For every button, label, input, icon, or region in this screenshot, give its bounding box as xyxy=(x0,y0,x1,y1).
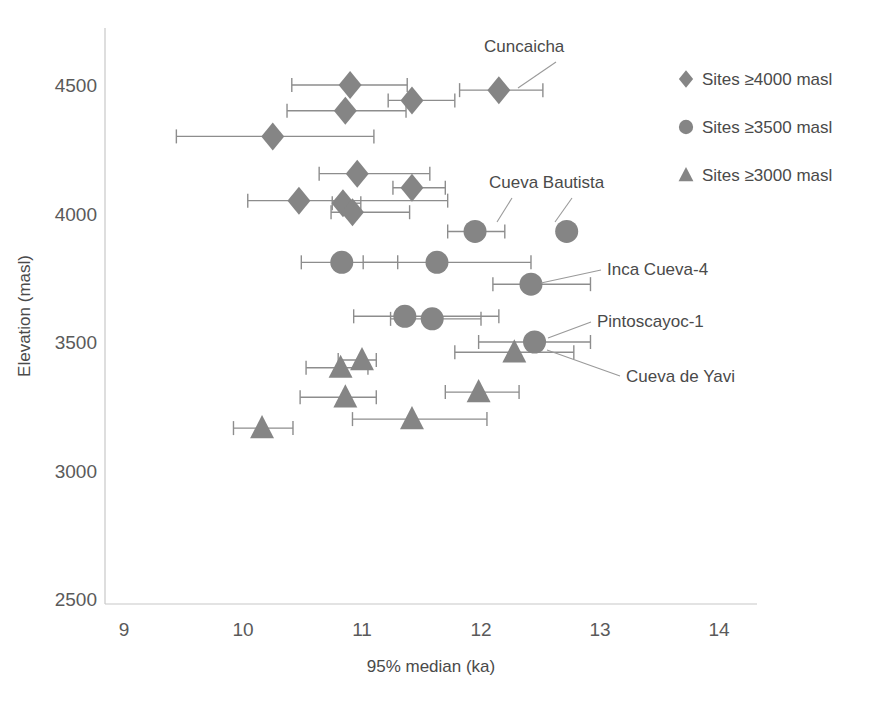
data-point-marker xyxy=(555,220,578,243)
data-point-marker xyxy=(393,305,416,328)
annotation-label: Cueva Bautista xyxy=(489,173,605,192)
legend-item-label: Sites ≥4000 masl xyxy=(702,70,832,89)
annotation-label: Cuncaicha xyxy=(484,37,565,56)
x-tick-label: 12 xyxy=(470,619,491,640)
legend-item[interactable]: Sites ≥4000 masl xyxy=(679,70,832,89)
y-tick-label: 3500 xyxy=(55,332,97,353)
legend-item-label: Sites ≥3000 masl xyxy=(702,166,832,185)
y-tick-label: 2500 xyxy=(55,589,97,610)
y-tick-label: 4500 xyxy=(55,75,97,96)
x-tick-label: 11 xyxy=(352,619,372,640)
data-point-marker xyxy=(330,251,353,274)
legend-item[interactable]: Sites ≥3500 masl xyxy=(679,118,832,137)
x-tick-label: 13 xyxy=(589,619,610,640)
annotation-label: Cueva de Yavi xyxy=(626,367,735,386)
circle-icon xyxy=(679,120,693,134)
annotation-label: Inca Cueva-4 xyxy=(607,260,708,279)
x-axis-title: 95% median (ka) xyxy=(367,657,496,676)
x-tick-label: 14 xyxy=(708,619,730,640)
data-point-marker xyxy=(425,251,448,274)
data-point-marker xyxy=(523,331,546,354)
y-tick-label: 4000 xyxy=(55,204,97,225)
legend-item-label: Sites ≥3500 masl xyxy=(702,118,832,137)
data-point-marker xyxy=(464,220,487,243)
y-tick-label: 3000 xyxy=(55,461,97,482)
legend: Sites ≥4000 maslSites ≥3500 maslSites ≥3… xyxy=(679,70,833,185)
annotation-label: Pintoscayoc-1 xyxy=(597,312,704,331)
data-point-marker xyxy=(519,273,542,296)
legend-item[interactable]: Sites ≥3000 masl xyxy=(679,166,833,185)
scatter-chart-figure: 25003000350040004500 91011121314 Cuncaic… xyxy=(0,0,884,706)
y-axis-title: Elevation (masl) xyxy=(15,255,34,377)
chart-canvas: 25003000350040004500 91011121314 Cuncaic… xyxy=(0,0,884,706)
chart-background xyxy=(0,0,884,706)
data-point-marker xyxy=(421,307,444,330)
x-tick-label: 10 xyxy=(232,619,253,640)
x-tick-label: 9 xyxy=(119,619,130,640)
